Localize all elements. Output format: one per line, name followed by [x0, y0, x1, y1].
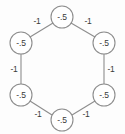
edge-weight-label: -1: [33, 16, 40, 26]
edge-weight-label: -1: [84, 16, 91, 26]
edge-weight-label: -1: [10, 64, 17, 74]
node-value-label: -.5: [16, 90, 25, 100]
edges-group: [21, 23, 104, 115]
node-value-label: -.5: [57, 12, 66, 22]
edge-weight-label: -1: [82, 109, 89, 119]
graph-diagram: -.5-.5-.5-.5-.5-.5 -1-1-1-1-1-1: [0, 0, 125, 134]
node-value-label: -.5: [99, 90, 108, 100]
node-value-label: -.5: [99, 38, 108, 48]
edge-weight-label: -1: [107, 64, 114, 74]
edge-weight-label: -1: [34, 109, 41, 119]
node-value-label: -.5: [57, 115, 66, 125]
nodes-group: [10, 6, 115, 131]
node-value-label: -.5: [16, 38, 25, 48]
